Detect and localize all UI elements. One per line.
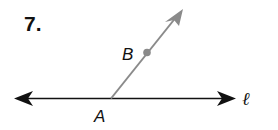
ray-arrowhead-icon <box>165 9 183 26</box>
point-b-label: B <box>122 45 133 64</box>
line-l <box>14 91 236 106</box>
problem-number: 7. <box>24 12 42 35</box>
line-label: ℓ <box>242 88 250 109</box>
geometry-figure: 7. ℓ B A <box>0 0 278 130</box>
point-b-dot <box>143 49 151 57</box>
point-a-label: A <box>93 107 105 126</box>
